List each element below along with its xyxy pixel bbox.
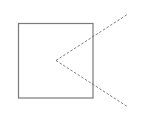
diagram-canvas xyxy=(0,0,141,113)
angle-ray-upper xyxy=(56,14,128,61)
square-shape xyxy=(19,24,94,99)
angle-ray-lower xyxy=(56,61,128,108)
